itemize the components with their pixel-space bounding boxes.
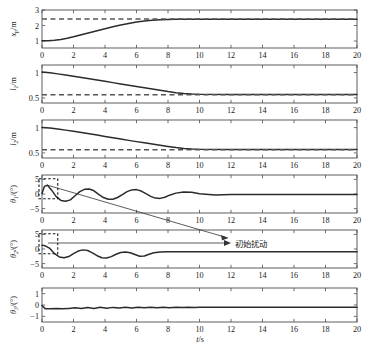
x-axis-label: t/s: [196, 335, 204, 344]
leader-arrowhead-theta2: [224, 240, 231, 246]
figure-container: 02468101214161820123xp/m0246810121416182…: [0, 0, 365, 359]
leader-line-theta1: [47, 185, 228, 238]
annotation-initial-disturbance: 初始扰动: [235, 239, 267, 249]
leader-arrowhead-theta1: [221, 235, 228, 241]
